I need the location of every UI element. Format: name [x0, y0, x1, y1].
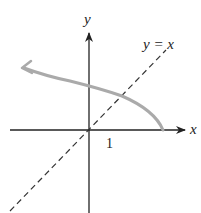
x-axis-label: x	[189, 121, 197, 137]
curve-arrow-icon	[22, 61, 32, 73]
y-axis-label: y	[82, 11, 91, 27]
tick-label-1: 1	[106, 136, 113, 151]
identity-line-label: y = x	[141, 36, 174, 52]
function-curve	[24, 68, 163, 130]
graph: y x 1 y = x	[0, 0, 201, 213]
